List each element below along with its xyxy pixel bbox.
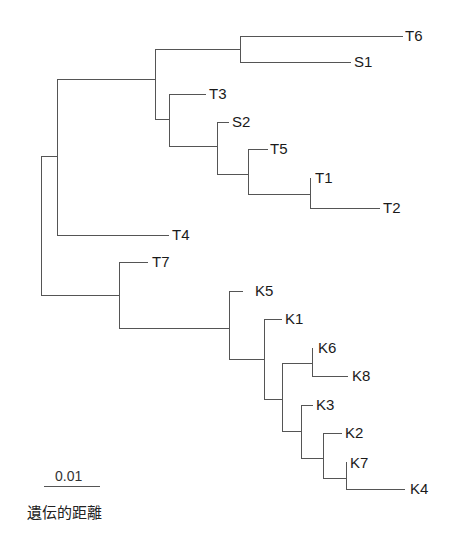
leaf-label-K8: K8 [352,367,370,384]
phylogenetic-tree: T6 S1 T3 S2 T5 T1 T2 T4 T7 K5 K1 K6 K8 K… [0,0,457,546]
genetic-distance-title: 遺伝的距離 [27,504,102,522]
scale-bar-label: 0.01 [55,468,82,484]
leaf-label-T1: T1 [315,169,333,186]
leaf-label-T2: T2 [383,199,401,216]
leaf-label-K2: K2 [345,424,363,441]
tree-branches [41,36,405,489]
leaf-label-K4: K4 [410,480,428,497]
leaf-label-K1: K1 [285,310,303,327]
leaf-label-S2: S2 [232,113,250,130]
leaf-labels: T6 S1 T3 S2 T5 T1 T2 T4 T7 K5 K1 K6 K8 K… [152,27,428,497]
leaf-label-T4: T4 [172,226,190,243]
leaf-label-S1: S1 [354,53,372,70]
leaf-label-T7: T7 [152,253,170,270]
scale-bar: 0.01 [44,468,100,486]
leaf-label-T5: T5 [270,140,288,157]
leaf-label-T6: T6 [405,27,423,44]
leaf-label-K3: K3 [316,396,334,413]
leaf-label-K6: K6 [318,339,336,356]
leaf-label-T3: T3 [209,85,227,102]
leaf-label-K7: K7 [350,454,368,471]
leaf-label-K5: K5 [255,282,273,299]
